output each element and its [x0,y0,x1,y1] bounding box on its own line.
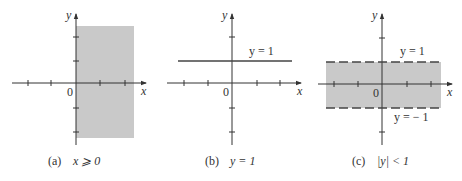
caption-tag-c: (c) [352,154,365,168]
caption-expr-c: |y| < 1 [377,154,409,168]
origin-label: 0 [373,86,379,100]
line-label: y = 1 [249,44,274,58]
x-axis-label: x [296,84,303,98]
upper-line-label: y = 1 [400,44,425,58]
figure: y x 0 (a) x ⩾ 0 y = 1 y x 0 (b) y = 1 [0,0,462,181]
caption-expr-b: y = 1 [229,154,255,168]
shaded-strip [326,62,441,108]
panel-c: y = 1 y = − 1 y x 0 (c) |y| < 1 [318,8,453,168]
x-axis-label: x [446,85,453,99]
origin-label: 0 [67,85,73,99]
y-axis-label: y [221,8,228,22]
caption-expr-a: x ⩾ 0 [72,154,100,168]
origin-label: 0 [223,85,229,99]
caption-tag-a: (a) [48,154,61,168]
y-axis-label: y [65,8,72,22]
panel-b: y = 1 y x 0 (b) y = 1 [167,8,303,168]
caption-tag-b: (b) [205,154,219,168]
panel-a: y x 0 (a) x ⩾ 0 [12,8,147,168]
y-axis-label: y [371,8,378,22]
x-axis-label: x [140,84,147,98]
lower-line-label: y = − 1 [394,110,429,124]
